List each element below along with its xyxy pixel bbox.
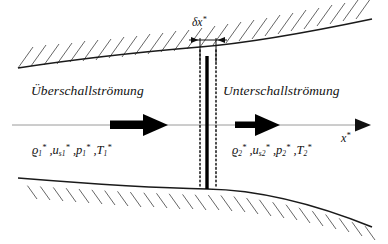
downstream-pressure: p2*: [276, 143, 290, 157]
upstream-state-variables: ϱ1* ,us1* ,p1* ,T1*: [32, 142, 111, 158]
flow-arrow-downstream-icon: [235, 114, 280, 136]
axis-arrow-right-icon: [355, 119, 371, 132]
upstream-pressure: p1*: [76, 143, 90, 157]
downstream-temperature: T2*: [297, 143, 312, 157]
upstream-density: ϱ1*: [32, 143, 46, 157]
downstream-velocity: us2*: [253, 143, 270, 157]
figure-canvas: Überschallströmung Unterschallströmung δ…: [0, 0, 388, 244]
schematic-drawing: [0, 0, 388, 244]
flow-arrow-upstream-icon: [110, 114, 168, 136]
upstream-regime-label: Überschallströmung: [31, 83, 144, 99]
downstream-state-variables: ϱ2* ,us2* ,p2* ,T2*: [232, 142, 311, 158]
axis-label: x*: [341, 130, 351, 146]
upstream-temperature: T1*: [97, 143, 112, 157]
upper-wall-hatching: [18, 0, 371, 68]
downstream-regime-label: Unterschallströmung: [223, 83, 340, 99]
upstream-velocity: us1*: [53, 143, 70, 157]
axis-label-star: *: [346, 130, 350, 140]
shock-thickness-symbol: δx: [192, 16, 202, 28]
shock-thickness-label: δx*: [192, 15, 206, 28]
shock-thickness-star: *: [202, 15, 206, 24]
downstream-density: ϱ2*: [232, 143, 246, 157]
